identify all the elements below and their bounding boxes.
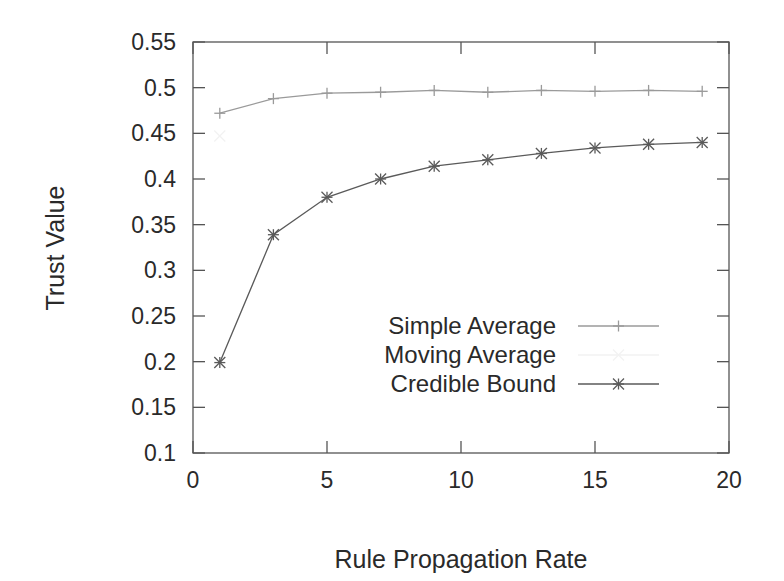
y-tick-label: 0.35 bbox=[131, 212, 176, 238]
star-marker-icon bbox=[429, 161, 440, 172]
star-marker-icon bbox=[322, 192, 333, 203]
plot-axes: 0.10.150.20.250.30.350.40.450.50.5505101… bbox=[131, 29, 742, 493]
plus-marker-icon bbox=[590, 86, 601, 97]
plus-marker-icon bbox=[375, 87, 386, 98]
x-axis-label: Rule Propagation Rate bbox=[335, 545, 588, 573]
star-marker-icon bbox=[590, 142, 601, 153]
legend-label: Simple Average bbox=[388, 312, 556, 339]
y-tick-label: 0.2 bbox=[144, 349, 176, 375]
plus-marker-icon bbox=[613, 321, 624, 332]
plus-marker-icon bbox=[322, 88, 333, 99]
y-tick-label: 0.55 bbox=[131, 29, 176, 55]
x-marker-icon bbox=[214, 131, 225, 142]
y-tick-label: 0.15 bbox=[131, 394, 176, 420]
legend-label: Credible Bound bbox=[391, 370, 556, 397]
x-tick-label: 10 bbox=[448, 467, 474, 493]
y-tick-label: 0.3 bbox=[144, 257, 176, 283]
star-marker-icon bbox=[375, 174, 386, 185]
plus-marker-icon bbox=[429, 85, 440, 96]
y-tick-label: 0.25 bbox=[131, 303, 176, 329]
star-marker-icon bbox=[536, 148, 547, 159]
y-axis-label: Trust Value bbox=[41, 185, 69, 310]
legend: Simple AverageMoving AverageCredible Bou… bbox=[384, 312, 659, 397]
x-tick-label: 5 bbox=[321, 467, 334, 493]
x-tick-label: 20 bbox=[716, 467, 742, 493]
plus-marker-icon bbox=[214, 108, 225, 119]
x-tick-label: 0 bbox=[187, 467, 200, 493]
star-marker-icon bbox=[643, 139, 654, 150]
plus-marker-icon bbox=[697, 86, 708, 97]
legend-label: Moving Average bbox=[384, 341, 556, 368]
plus-marker-icon bbox=[268, 93, 279, 104]
star-marker-icon bbox=[613, 379, 624, 390]
star-marker-icon bbox=[268, 229, 279, 240]
star-marker-icon bbox=[214, 357, 225, 368]
x-tick-label: 15 bbox=[582, 467, 608, 493]
plus-marker-icon bbox=[482, 87, 493, 98]
plus-marker-icon bbox=[643, 85, 654, 96]
series-line bbox=[220, 90, 702, 113]
star-marker-icon bbox=[697, 137, 708, 148]
y-tick-label: 0.4 bbox=[144, 166, 176, 192]
y-tick-label: 0.45 bbox=[131, 120, 176, 146]
y-tick-label: 0.1 bbox=[144, 440, 176, 466]
chart-canvas: 0.10.150.20.250.30.350.40.450.50.5505101… bbox=[0, 0, 784, 581]
plus-marker-icon bbox=[536, 85, 547, 96]
star-marker-icon bbox=[482, 154, 493, 165]
y-tick-label: 0.5 bbox=[144, 75, 176, 101]
trust-value-line-chart: 0.10.150.20.250.30.350.40.450.50.5505101… bbox=[0, 0, 784, 581]
